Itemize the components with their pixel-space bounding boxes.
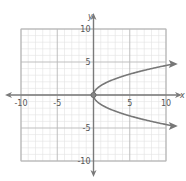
x-tick-label: -10 [14, 99, 27, 108]
y-tick-label: -10 [77, 157, 90, 166]
y-tick-label: -5 [83, 124, 91, 133]
y-axis-label: y [87, 12, 93, 21]
curve-upper-branch [94, 64, 172, 95]
x-axis-label: x [179, 91, 185, 100]
graph-plot: -10-5510105-5-10 x y [0, 0, 186, 181]
x-tick-label: 5 [127, 99, 132, 108]
vertex-point [91, 92, 96, 97]
x-tick-label: -5 [53, 99, 61, 108]
x-tick-label: 10 [161, 99, 171, 108]
y-tick-label: 5 [85, 58, 90, 67]
y-tick-label: 10 [80, 25, 90, 34]
